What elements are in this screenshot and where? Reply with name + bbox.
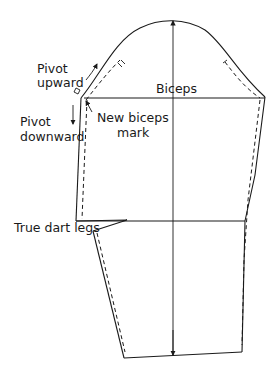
label-pivot-downward-2: downward [20, 129, 84, 144]
right-seam [242, 97, 265, 352]
sleeve-pattern-diagram: Pivot upward Pivot downward Biceps New b… [0, 0, 270, 365]
label-new-biceps-1: New biceps [97, 110, 169, 125]
left-seam-upper-dashed [82, 100, 87, 219]
label-pivot-upward-2: upward [37, 75, 84, 90]
sleeve-cap-dashed-right [225, 62, 260, 98]
left-seam-lower-dashed [97, 233, 125, 352]
label-biceps: Biceps [156, 81, 197, 96]
label-pivot-downward-1: Pivot [20, 114, 51, 129]
left-seam-upper [76, 98, 81, 221]
left-seam-lower [93, 231, 124, 358]
label-true-dart-legs: True dart legs [13, 220, 100, 235]
label-pivot-upward-1: Pivot [37, 61, 68, 76]
wrist-line [124, 352, 242, 358]
label-new-biceps-2: mark [117, 125, 150, 140]
